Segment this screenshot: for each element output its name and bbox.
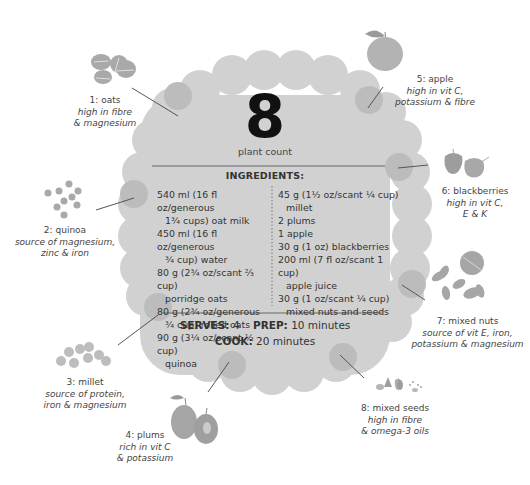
plant-label-mixed-nuts: 7: mixed nuts source of vit E, iron, pot… <box>405 316 530 351</box>
plant-label-apple: 5: apple high in vit C, potassium & fibr… <box>385 74 485 109</box>
ingredient-item: 540 ml (16 fl oz/generous1¾ cups) oat mi… <box>157 188 267 227</box>
ingredients-right-column: 45 g (1½ oz/scant ¼ cup)millet 2 plums 1… <box>278 188 403 318</box>
ingredients-heading: INGREDIENTS: <box>215 170 315 181</box>
plant-label-blackberries: 6: blackberries high in vit C, E & K <box>430 186 520 221</box>
prep-value: 10 minutes <box>291 319 350 331</box>
ingredient-item: 80 g (2¾ oz/scant ⅔ cup)porridge oats <box>157 266 267 305</box>
prep-label: PREP: <box>253 319 288 331</box>
cook-label: COOK: <box>215 335 253 347</box>
blackberries-icon <box>444 149 489 178</box>
quinoa-icon <box>45 181 82 219</box>
oats-icon <box>91 54 136 84</box>
ingredient-item: 30 g (1 oz) blackberries <box>278 240 403 253</box>
ingredient-item: 200 ml (7 fl oz/scant 1 cup)apple juice <box>278 253 403 292</box>
serves-label: SERVES: <box>180 319 230 331</box>
plant-count-label: plant count <box>215 146 315 157</box>
marker-quinoa <box>120 180 148 208</box>
ingredient-item: 450 ml (16 fl oz/generous¾ cup) water <box>157 227 267 266</box>
plant-label-oats: 1: oats high in fibre & magnesium <box>60 95 150 130</box>
apple-icon <box>365 30 403 71</box>
plant-count-value: 8 <box>230 88 300 146</box>
plant-label-millet: 3: millet source of protein, iron & magn… <box>35 377 135 412</box>
ingredient-item: 2 plums <box>278 214 403 227</box>
ingredient-item: 1 apple <box>278 227 403 240</box>
mixed-seeds-icon <box>376 377 422 392</box>
millet-icon <box>56 342 111 368</box>
serves-value: 4 <box>233 319 240 331</box>
plant-label-plums: 4: plums rich in vit C & potassium <box>105 430 185 465</box>
marker-apple <box>355 86 383 114</box>
ingredient-item: 45 g (1½ oz/scant ¼ cup)millet <box>278 188 403 214</box>
recipe-plant-count-card: 8 plant count INGREDIENTS: 540 ml (16 fl… <box>0 0 530 485</box>
cook-line: COOK: 20 minutes <box>150 335 380 347</box>
serves-prep-line: SERVES: 4 PREP: 10 minutes <box>150 319 380 331</box>
marker-oats <box>164 82 192 110</box>
plant-label-mixed-seeds: 8: mixed seeds high in fibre & omega-3 o… <box>345 403 445 438</box>
mixed-nuts-icon <box>430 251 486 301</box>
ingredient-item: 30 g (1 oz/scant ¼ cup)mixed nuts and se… <box>278 292 403 318</box>
plant-label-quinoa: 2: quinoa source of magnesium, zinc & ir… <box>10 225 120 260</box>
cook-value: 20 minutes <box>256 335 315 347</box>
